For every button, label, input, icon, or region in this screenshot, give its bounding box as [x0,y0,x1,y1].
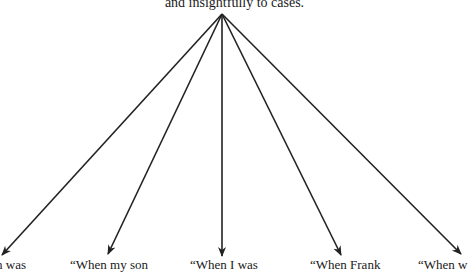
arrow-1 [2,14,222,255]
leaf-label-3: “When I was [190,257,258,273]
leaf-label-2: “When my son [70,257,148,273]
leaf-label-4: “When Frank [310,257,380,273]
arrow-2 [108,14,222,254]
arrow-5 [222,14,461,254]
arrow-4 [222,14,341,255]
leaf-label-5: “When w [418,257,467,273]
leaf-label-1: h was [0,257,26,273]
